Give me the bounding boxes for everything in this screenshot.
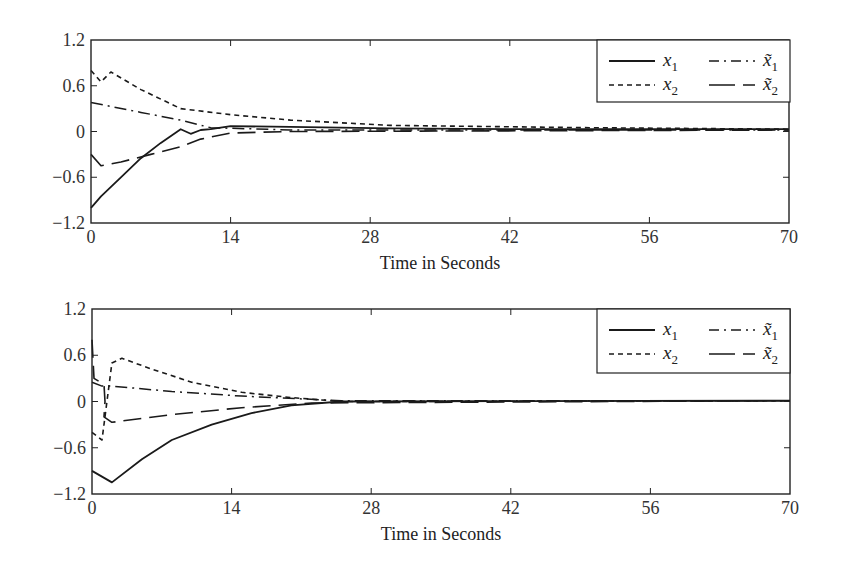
series-xt1-line <box>92 382 790 401</box>
series-xt2-line <box>91 130 789 166</box>
x-tick-label: 42 <box>501 227 519 247</box>
x-axis-title: Time in Seconds <box>381 524 501 544</box>
x-tick-label: 14 <box>223 498 241 518</box>
x-tick-label: 42 <box>502 498 520 518</box>
y-tick-label: 0 <box>77 392 86 412</box>
series-x1-line <box>92 401 790 483</box>
y-tick-label: 0.6 <box>63 76 86 96</box>
x-tick-label: 28 <box>362 498 380 518</box>
y-tick-label: 0 <box>76 122 85 142</box>
y-tick-label: −1.2 <box>52 213 85 233</box>
x-tick-label: 14 <box>222 227 240 247</box>
x-tick-label: 0 <box>87 227 96 247</box>
y-tick-label: 1.2 <box>64 299 87 319</box>
y-tick-label: 0.6 <box>64 345 87 365</box>
legend: x1x̃1x2x̃2 <box>597 40 790 102</box>
series-xt1-line <box>91 103 789 131</box>
x-tick-label: 70 <box>780 227 798 247</box>
figure: 014284256701.20.60−0.6−1.2Time in Second… <box>0 0 842 577</box>
series-x1-line <box>91 126 789 208</box>
x-axis-title: Time in Seconds <box>380 253 500 273</box>
chart-2: 014284256701.20.60−0.6−1.2Time in Second… <box>53 299 799 544</box>
chart-1: 014284256701.20.60−0.6−1.2Time in Second… <box>52 30 798 273</box>
x-tick-label: 70 <box>781 498 799 518</box>
x-tick-label: 0 <box>88 498 97 518</box>
y-tick-label: −0.6 <box>53 438 86 458</box>
x-tick-label: 56 <box>641 498 659 518</box>
x-tick-label: 28 <box>361 227 379 247</box>
x-tick-label: 56 <box>640 227 658 247</box>
y-tick-label: −0.6 <box>52 167 85 187</box>
y-tick-label: 1.2 <box>63 30 86 50</box>
y-tick-label: −1.2 <box>53 484 86 504</box>
legend: x1x̃1x2x̃2 <box>597 309 790 373</box>
